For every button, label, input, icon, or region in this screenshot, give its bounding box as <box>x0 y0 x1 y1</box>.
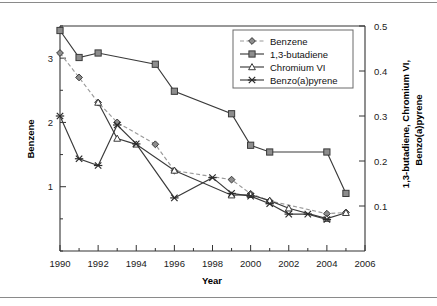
x-axis-title: Year <box>202 275 222 286</box>
figure: 199019921994199619982000200220042006 123… <box>0 0 437 306</box>
square-marker <box>76 54 82 60</box>
square-marker <box>267 149 273 155</box>
left-tick-label: 2 <box>48 117 53 128</box>
right-axis-title-line1: 1,3-butadiene, Chromium VI, <box>400 60 411 188</box>
line-chart: 199019921994199619982000200220042006 123… <box>0 6 437 291</box>
x-axis-tick-labels: 199019921994199619982000200220042006 <box>49 258 375 269</box>
x-marker <box>94 162 102 168</box>
top-divider <box>0 2 437 3</box>
chart-plot-area: 199019921994199619982000200220042006 123… <box>0 6 437 291</box>
x-axis-ticks <box>60 245 365 251</box>
left-axis-title: Benzene <box>25 119 36 158</box>
series-chromium-vi <box>95 99 350 221</box>
square-marker <box>248 142 254 148</box>
right-tick-label: 0.4 <box>374 66 387 77</box>
left-axis-tick-labels: 123 <box>48 53 53 193</box>
x-tick-label: 1996 <box>164 258 185 269</box>
right-tick-label: 0.1 <box>374 201 387 212</box>
right-axis-title-line2: Benzo(a)pyrene <box>413 94 424 165</box>
x-marker <box>208 174 216 180</box>
bottom-divider <box>0 297 437 298</box>
right-tick-label: 0.3 <box>374 111 387 122</box>
left-tick-label: 1 <box>48 181 53 192</box>
square-marker <box>249 51 255 57</box>
left-tick-label: 3 <box>48 53 53 64</box>
right-tick-label: 0.2 <box>374 156 387 167</box>
x-tick-label: 2006 <box>354 258 375 269</box>
square-marker <box>57 27 63 33</box>
x-tick-label: 1998 <box>202 258 223 269</box>
right-axis-tick-labels: 0.10.20.30.40.5 <box>374 21 387 212</box>
square-marker <box>152 61 158 67</box>
x-marker <box>170 195 178 201</box>
x-tick-label: 1992 <box>88 258 109 269</box>
right-tick-label: 0.5 <box>374 21 387 32</box>
x-tick-label: 1994 <box>126 258 147 269</box>
triangle-marker <box>114 135 121 141</box>
series-line <box>98 103 346 219</box>
right-axis-ticks <box>359 26 365 206</box>
legend-label[interactable]: Benzene <box>270 36 308 47</box>
square-marker <box>95 50 101 56</box>
legend-label[interactable]: Chromium VI <box>270 62 325 73</box>
legend-label[interactable]: Benzo(a)pyrene <box>270 75 338 86</box>
x-tick-label: 2000 <box>240 258 261 269</box>
x-tick-label: 2002 <box>278 258 299 269</box>
legend-label[interactable]: 1,3-butadiene <box>270 49 328 60</box>
square-marker <box>324 149 330 155</box>
x-tick-label: 1990 <box>49 258 70 269</box>
chart-legend: Benzene1,3-butadieneChromium VIBenzo(a)p… <box>233 30 353 88</box>
square-marker <box>343 190 349 196</box>
x-tick-label: 2004 <box>316 258 337 269</box>
x-marker <box>304 211 312 217</box>
square-marker <box>171 88 177 94</box>
square-marker <box>228 111 234 117</box>
x-marker <box>285 211 293 217</box>
x-marker <box>75 156 83 162</box>
